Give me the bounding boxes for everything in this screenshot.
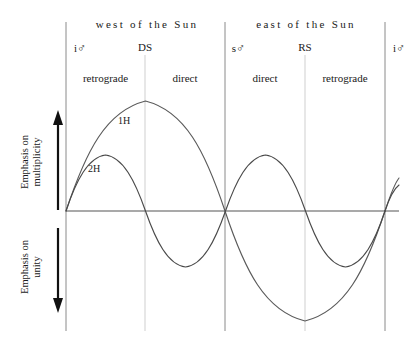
up-arrow bbox=[53, 110, 63, 210]
axis-caption-unity-line1: Emphasis on bbox=[19, 217, 31, 317]
motion-phase-direct-1: direct bbox=[145, 72, 225, 84]
motion-phase-retrograde-1: retrograde bbox=[66, 72, 145, 84]
axis-caption-multiplicity-line2: multiplicity bbox=[31, 107, 43, 217]
event-marker-inferior-conjunction-left: i♂ bbox=[36, 41, 86, 56]
mars-symbol-icon: ♂ bbox=[77, 41, 86, 55]
region-header-east: east of the Sun bbox=[231, 18, 381, 30]
down-arrow bbox=[53, 228, 63, 313]
curve-label-first-harmonic: 1H bbox=[118, 115, 130, 126]
region-header-west: west of the Sun bbox=[72, 18, 222, 30]
mars-symbol-icon: ♂ bbox=[236, 41, 245, 55]
event-prefix: RS bbox=[298, 41, 311, 53]
harmonic-cycle-diagram: west of the Sun east of the Sun i♂ DS s♂… bbox=[0, 0, 404, 339]
motion-phase-direct-2: direct bbox=[225, 72, 305, 84]
axis-caption-multiplicity-line1: Emphasis on bbox=[19, 107, 31, 217]
event-marker-retrograde-station: RS bbox=[280, 41, 330, 53]
event-marker-superior-conjunction: s♂ bbox=[195, 41, 245, 56]
mars-symbol-icon: ♂ bbox=[396, 41, 404, 55]
axis-caption-unity-line2: unity bbox=[31, 217, 43, 317]
curve-label-second-harmonic: 2H bbox=[88, 163, 100, 174]
curve-second-harmonic-tail bbox=[385, 185, 399, 211]
event-prefix: DS bbox=[138, 41, 152, 53]
axis-caption-multiplicity: Emphasis on multiplicity bbox=[19, 107, 43, 217]
motion-phase-retrograde-2: retrograde bbox=[305, 72, 385, 84]
axis-caption-unity: Emphasis on unity bbox=[19, 217, 43, 317]
event-marker-inferior-conjunction-right: i♂ bbox=[355, 41, 404, 56]
event-marker-direct-station: DS bbox=[120, 41, 170, 53]
